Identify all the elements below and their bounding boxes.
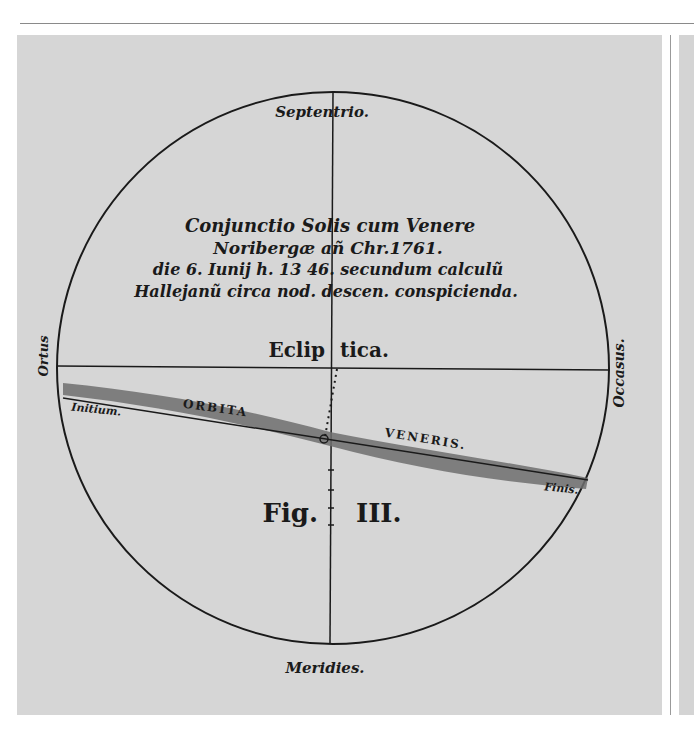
transit-diagram: Septentrio. Meridies. Ortus Occasus. Con… [0,0,694,733]
venus-orbit-line [63,398,588,480]
ecliptic-line [57,366,610,370]
east-label: Ortus [36,335,51,377]
west-label: Occasus. [611,338,627,407]
figure-label-left: Fig. [262,498,318,528]
south-label: Meridies. [284,659,364,677]
title-line-2: Noribergæ añ Chr.1761. [212,238,442,258]
ecliptic-label-right: tica. [340,338,389,362]
orbit-start-label: Initium. [70,400,122,418]
title-line-4: Hallejanũ circa nod. descen. conspiciend… [133,282,518,301]
title-line-3: die 6. Iunij h. 13 46. secundum calculũ [153,260,503,279]
title-line-1: Conjunctio Solis cum Venere [185,215,475,236]
figure-label-right: III. [356,498,402,528]
orbit-end-label: Finis. [543,480,580,497]
ecliptic-label-left: Eclip [268,338,325,362]
north-label: Septentrio. [275,103,369,121]
